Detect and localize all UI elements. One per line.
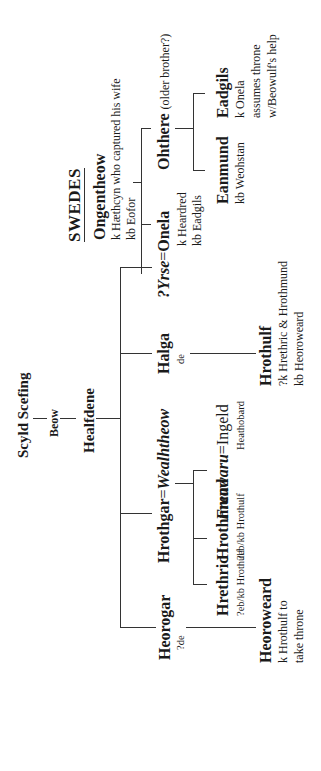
ohthere-name: Ohthere (155, 113, 172, 170)
person-hrothulf: Hrothulf (258, 326, 274, 386)
person-hrethric: Hrethric (215, 557, 231, 616)
heoroweard-note-1: k Hrothulf to (277, 600, 289, 663)
eadgils-note-1: k Onela (234, 80, 246, 118)
line-to-hrothgar (120, 513, 152, 514)
hrothmund-note: ?eb/kb Hrothulf (236, 493, 247, 560)
person-healfdene: Healfdene (82, 388, 97, 453)
onela-note-2: kb Eadgils (191, 195, 203, 246)
person-beow: Beow (48, 409, 60, 437)
heorogar-note: ?de (176, 635, 187, 650)
line-to-hrethric (193, 584, 207, 585)
ingeld-note: Heathobard (236, 401, 247, 450)
ongentheow-note-1: k Hæthcyn who captured his wife (110, 78, 122, 240)
line-to-yrse (120, 267, 152, 268)
freawaru-name: Freawaru (214, 454, 231, 520)
line-halga-hrothulf (190, 353, 256, 354)
line-hrothgar-siblings (193, 470, 194, 584)
line-healfdene-children (96, 418, 120, 419)
person-ongentheow: Ongentheow (92, 154, 108, 240)
hrothgar-marriage-sign: = (155, 489, 172, 498)
person-heoroweard: Heoroweard (258, 578, 274, 663)
line-healfdene-siblings (120, 267, 121, 627)
line-to-heorogar (120, 627, 156, 628)
freawaru-marriage-sign: = (214, 445, 231, 454)
line-to-halga (120, 353, 152, 354)
eanmund-note: kb Weohstan (234, 142, 246, 204)
ingeld-name: Ingeld (214, 404, 231, 445)
halga-note: de (176, 354, 187, 364)
person-freawaru: Freawaru=Ingeld (215, 404, 231, 520)
line-ohthere-children (175, 128, 193, 129)
person-eanmund: Eanmund (215, 136, 231, 204)
swedes-heading: SWEDES (66, 168, 85, 242)
line-ongentheow-children (133, 182, 141, 183)
person-yrse-onela: ?Yrse=Onela (156, 211, 172, 298)
wealhtheow-name: Wealhtheow (155, 409, 172, 490)
line-ohthere-siblings (193, 93, 194, 171)
line-to-freawaru (193, 470, 207, 471)
person-hrothgar: Hrothgar=Wealhtheow (156, 409, 172, 563)
line-beow-healfdene (60, 418, 76, 419)
hrothgar-name: Hrothgar (155, 498, 172, 563)
person-eadgils: Eadgils (215, 67, 231, 118)
line-heorogar-heoroweard (186, 627, 256, 628)
line-to-eadgils (193, 93, 205, 94)
line-to-hrothmund2 (193, 538, 207, 539)
person-scyld-scefing: Scyld Scefing (16, 373, 31, 458)
ongentheow-note-2: kb Eofor (125, 198, 137, 240)
ohthere-note: (older brother?) (158, 34, 172, 110)
line-to-eanmund (193, 170, 205, 171)
yrse-marriage-sign: = (155, 252, 172, 261)
line-ongentheow-siblings (141, 128, 142, 274)
person-halga: Halga (156, 333, 172, 374)
line-hrothgar-children (175, 483, 193, 484)
person-heorogar: Heorogar (157, 595, 173, 660)
line-scyld-beow (33, 418, 47, 419)
line-to-ohthere (141, 128, 151, 129)
hrothulf-note-1: ?k Hrethric & Hrothmund (277, 261, 289, 386)
eadgils-note-2: assumes throne (250, 44, 262, 118)
person-ohthere: Ohthere (older brother?) (156, 34, 172, 170)
onela-name: Onela (155, 211, 172, 252)
hrothulf-note-2: kb Heoroweard (293, 312, 305, 386)
yrse-name: ?Yrse (155, 261, 172, 298)
eadgils-note-3: w/Beowulf's help (266, 34, 278, 118)
onela-note-1: k Heardred (176, 192, 188, 246)
line-to-onela (141, 224, 151, 225)
heoroweard-note-2: take throne (293, 609, 305, 663)
